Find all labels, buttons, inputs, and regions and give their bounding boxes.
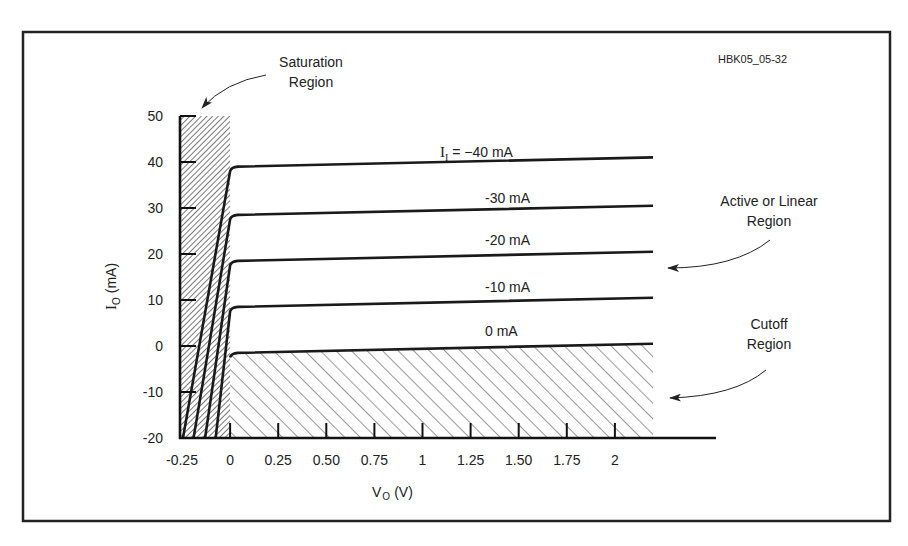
x-tick-label: 0: [226, 452, 234, 468]
active-label-line2: Region: [747, 213, 791, 229]
y-tick-label: 40: [147, 154, 163, 170]
figure-id: HBK05_05-32: [718, 53, 787, 65]
curve-label-1: -30 mA: [485, 190, 531, 206]
saturation-label-line2: Region: [289, 74, 333, 90]
x-tick-label: 0.25: [265, 452, 292, 468]
cutoff-region: [230, 344, 653, 438]
x-tick-label: 0.50: [313, 452, 340, 468]
saturation-region: [180, 116, 230, 438]
x-tick-label: 1.75: [553, 452, 580, 468]
cutoff-label-line2: Region: [747, 336, 791, 352]
curve-label-3: -10 mA: [485, 279, 531, 295]
y-tick-label: -20: [143, 430, 163, 446]
cutoff-label-line1: Cutoff: [750, 316, 787, 332]
y-tick-label: 30: [147, 200, 163, 216]
y-tick-label: 10: [147, 292, 163, 308]
curve-label-2: -20 mA: [485, 232, 531, 248]
y-tick-label: -10: [143, 384, 163, 400]
x-tick-label: 0.75: [361, 452, 388, 468]
saturation-label-line1: Saturation: [279, 54, 343, 70]
y-tick-label: 20: [147, 246, 163, 262]
x-tick-label: -0.25: [166, 452, 198, 468]
x-tick-label: 2: [611, 452, 619, 468]
curve-label-4: 0 mA: [485, 323, 518, 339]
y-tick-label: 0: [155, 338, 163, 354]
figure-frame: [23, 32, 890, 521]
chart: HBK05_05-32 50403020100-10-20-0.2500.250…: [0, 0, 908, 546]
x-tick-label: 1.25: [457, 452, 484, 468]
x-tick-label: 1.50: [505, 452, 532, 468]
y-tick-label: 50: [147, 108, 163, 124]
active-label-line1: Active or Linear: [720, 193, 818, 209]
x-tick-label: 1: [419, 452, 427, 468]
